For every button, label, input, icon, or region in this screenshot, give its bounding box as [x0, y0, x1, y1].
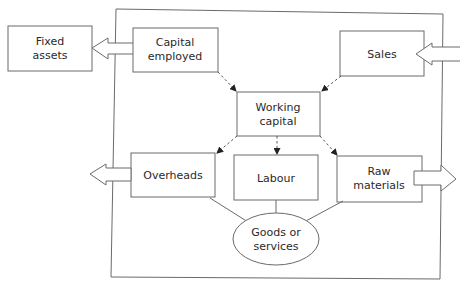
raw-materials-label-2: materials	[353, 179, 405, 192]
working-capital-diagram: Fixed assets Capital employed Sales Work…	[0, 0, 460, 285]
node-sales: Sales	[340, 31, 424, 76]
node-raw-materials: Raw materials	[337, 156, 422, 202]
goods-or-services-label-1: Goods or	[251, 226, 301, 239]
node-goods-or-services: Goods or services	[233, 213, 319, 265]
capital-employed-label-1: Capital	[156, 36, 195, 49]
overheads-label: Overheads	[143, 169, 203, 182]
working-capital-label-2: capital	[260, 115, 297, 128]
working-capital-label-1: Working	[256, 101, 301, 114]
dashed-arrow-sales-to-working	[322, 76, 341, 91]
dashed-arrow-capital-to-working	[218, 72, 236, 91]
raw-materials-label-1: Raw	[367, 165, 390, 178]
goods-or-services-label-2: services	[253, 240, 298, 253]
labour-label: Labour	[257, 172, 296, 185]
fixed-assets-label-1: Fixed	[36, 35, 65, 48]
line-raw-materials-to-goods	[304, 201, 343, 222]
fixed-assets-label-2: assets	[32, 49, 67, 62]
dashed-arrow-working-to-overheads	[217, 136, 237, 153]
arrow-capital-to-fixed-assets	[92, 38, 134, 59]
capital-employed-label-2: employed	[148, 50, 203, 63]
dashed-arrow-working-to-raw-materials	[320, 136, 337, 155]
node-overheads: Overheads	[131, 153, 215, 197]
node-fixed-assets: Fixed assets	[8, 26, 92, 71]
sales-label: Sales	[367, 48, 397, 61]
line-overheads-to-goods	[210, 198, 248, 222]
node-labour: Labour	[234, 155, 318, 200]
node-capital-employed: Capital employed	[133, 28, 218, 72]
node-working-capital: Working capital	[237, 92, 320, 136]
arrow-out-of-overheads	[90, 164, 131, 185]
